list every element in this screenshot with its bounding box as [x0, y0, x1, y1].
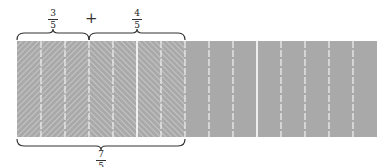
numerator: 7	[93, 150, 109, 159]
denominator: 5	[93, 162, 109, 167]
fraction-second-addend: 4 5	[129, 9, 145, 30]
denominator: 5	[45, 21, 61, 30]
numerator: 3	[45, 9, 61, 18]
denominator: 5	[129, 21, 145, 30]
numerator: 4	[129, 9, 145, 18]
fraction-result: 7 5	[93, 150, 109, 167]
fraction-first-addend: 3 5	[45, 9, 61, 30]
bar	[17, 41, 377, 137]
brace-second-addend	[89, 29, 185, 40]
part-first-addend	[17, 41, 89, 137]
brace-first-addend	[17, 29, 89, 40]
plus-sign: +	[85, 11, 98, 26]
